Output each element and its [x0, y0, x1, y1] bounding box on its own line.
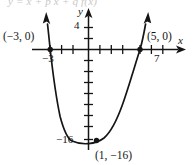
y-axis [85, 8, 93, 150]
y-axis-label: y [78, 6, 83, 17]
parabola-curve [43, 12, 151, 144]
point-right-intercept [137, 47, 142, 52]
y-tick-label-4: 4 [74, 20, 80, 31]
label-left-intercept: (−3, 0) [3, 31, 34, 43]
x-tick-label-7: 7 [154, 53, 160, 64]
coordinate-plot [0, 0, 193, 165]
y-tick-label-neg16: −16 [56, 134, 73, 145]
point-vertex [94, 138, 99, 143]
parabola-figure: y = x + p x + q f(x) [0, 0, 193, 165]
x-tick-label-neg3: −3 [42, 53, 54, 64]
x-axis-label: x [178, 35, 183, 46]
marked-points [48, 47, 143, 143]
label-right-intercept: (5, 0) [147, 31, 172, 43]
label-vertex: (1, −16) [95, 150, 132, 162]
